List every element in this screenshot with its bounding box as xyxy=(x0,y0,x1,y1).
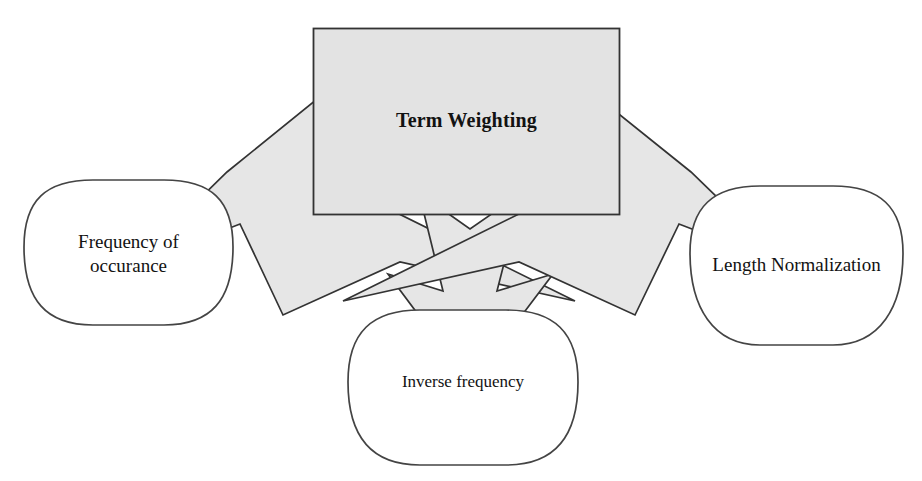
node-middle-shape[interactable] xyxy=(348,310,578,465)
node-left-shape[interactable] xyxy=(24,180,233,325)
diagram-graphics xyxy=(0,0,922,481)
diagram-canvas: Term Weighting Frequency of occurance In… xyxy=(0,0,922,481)
node-right-shape[interactable] xyxy=(690,186,903,345)
node-center-shape[interactable] xyxy=(314,29,620,215)
